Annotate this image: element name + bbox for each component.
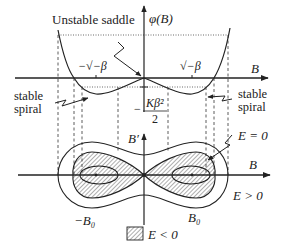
neg-sqrt-beta-label: −√−β (78, 59, 107, 73)
left-spiral-label-line2: spiral (14, 102, 42, 116)
phase-diagram: Unstable saddle φ(B) B −√−β √−β stable s… (0, 0, 284, 251)
hatched-legend-label: E < 0 (147, 227, 178, 242)
phase-portrait: B′ B E = 0 E > 0 −B₀ B₀ E < 0 (18, 128, 270, 242)
phi-axis-label: φ(B) (149, 11, 173, 26)
left-spiral-label-line1: stable (14, 89, 44, 103)
separatrix-label: E = 0 (237, 128, 268, 143)
right-spiral-label-line2: spiral (238, 100, 266, 114)
right-spiral-label-line1: stable (238, 87, 268, 101)
min-value-sign: − (134, 102, 141, 116)
right-center-point (191, 174, 194, 177)
upper-b-axis-label: B (251, 61, 259, 76)
min-value-numerator: Kβ² (145, 96, 164, 110)
hatched-legend-swatch (127, 227, 143, 240)
pos-sqrt-beta-label: √−β (180, 59, 201, 73)
left-center-point (95, 174, 98, 177)
b-prime-axis-label: B′ (128, 131, 139, 146)
min-value-denominator: 2 (152, 112, 158, 126)
lower-b-axis-label: B (249, 157, 257, 172)
unstable-saddle-label: Unstable saddle (52, 12, 135, 27)
left-spiral-pointer-arrow (55, 98, 88, 106)
outer-orbit-label: E > 0 (232, 188, 263, 203)
potential-plot: Unstable saddle φ(B) B −√−β √−β stable s… (14, 6, 268, 175)
pos-b0-label: B₀ (188, 210, 200, 225)
neg-b0-label: −B₀ (74, 213, 95, 228)
saddle-pointer-arrow (114, 42, 141, 76)
saddle-point (142, 173, 146, 177)
